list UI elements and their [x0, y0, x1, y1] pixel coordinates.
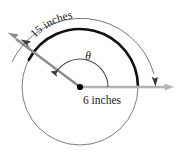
angle-theta-label: θ — [85, 50, 91, 62]
center-dot — [77, 84, 83, 90]
geometry-canvas: 15 inches 6 inches θ — [0, 0, 177, 155]
radius-label: 6 inches — [83, 94, 122, 106]
figure-background — [0, 0, 177, 155]
geometry-figure: 15 inches 6 inches θ — [0, 0, 177, 155]
